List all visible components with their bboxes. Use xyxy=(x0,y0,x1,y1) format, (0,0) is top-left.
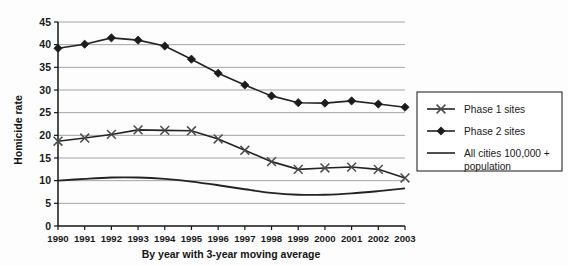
chart-legend: Phase 1 sitesPhase 2 sitesAll cities 100… xyxy=(417,92,562,172)
diamond-marker xyxy=(214,69,222,77)
x-tick-label: 2000 xyxy=(314,233,335,244)
diamond-marker xyxy=(187,55,195,63)
y-tick-label: 5 xyxy=(45,197,51,209)
x-tick-label: 1999 xyxy=(288,233,309,244)
diamond-marker xyxy=(374,100,382,108)
y-tick-label: 20 xyxy=(39,129,51,141)
y-tick-label: 40 xyxy=(39,38,51,50)
y-tick-label: 10 xyxy=(39,174,51,186)
x-tick-label: 2002 xyxy=(368,233,389,244)
diamond-marker xyxy=(401,103,409,111)
data-series xyxy=(54,34,410,195)
diamond-marker xyxy=(348,97,356,105)
cross-marker xyxy=(214,135,223,144)
x-axis-title: By year with 3-year moving average xyxy=(142,248,321,260)
legend-label: Phase 2 sites xyxy=(464,126,525,137)
series-line xyxy=(58,130,405,178)
gridlines xyxy=(58,22,405,203)
x-tick-label: 1996 xyxy=(207,233,228,244)
y-tick-label: 25 xyxy=(39,106,51,118)
legend-label: Phase 1 sites xyxy=(464,104,525,115)
x-tick-label: 2001 xyxy=(341,233,363,244)
y-tick-label: 15 xyxy=(39,152,51,164)
diamond-marker xyxy=(321,99,329,107)
series-line xyxy=(58,38,405,107)
legend-label: All cities 100,000 + xyxy=(464,148,550,159)
x-tick-label: 1998 xyxy=(261,233,283,244)
x-tick-label: 1993 xyxy=(127,233,148,244)
diamond-marker xyxy=(161,42,169,50)
x-tick-label: 1994 xyxy=(154,233,176,244)
chart-canvas: 051015202530354045 199019911992199319941… xyxy=(0,0,568,265)
series-phase-1-sites xyxy=(54,125,410,182)
diamond-marker xyxy=(107,34,115,42)
y-tick-label: 35 xyxy=(39,61,51,73)
y-axis-title: Homicide rate xyxy=(12,95,24,165)
diamond-marker xyxy=(54,44,62,52)
x-tick-label: 1995 xyxy=(181,233,203,244)
cross-marker xyxy=(267,157,276,166)
x-tick-label: 1997 xyxy=(234,233,255,244)
series-phase-2-sites xyxy=(54,34,409,112)
y-tick-label: 45 xyxy=(39,16,51,28)
legend-label-line2: population xyxy=(464,161,511,172)
diamond-marker xyxy=(81,40,89,48)
homicide-rate-line-chart: 051015202530354045 199019911992199319941… xyxy=(0,0,568,265)
y-tick-label: 30 xyxy=(39,84,51,96)
series-line xyxy=(58,177,405,195)
diamond-marker xyxy=(267,92,275,100)
y-tick-label: 0 xyxy=(45,220,51,232)
x-tick-label: 1990 xyxy=(47,233,68,244)
x-axis-tick-labels: 1990199119921993199419951996199719981999… xyxy=(47,226,415,244)
series-all-cities-100-000-population xyxy=(58,177,405,195)
x-tick-label: 1991 xyxy=(74,233,96,244)
diamond-marker xyxy=(241,81,249,89)
cross-marker xyxy=(240,146,249,155)
x-tick-label: 1992 xyxy=(101,233,122,244)
diamond-marker xyxy=(294,99,302,107)
diamond-marker xyxy=(134,36,142,44)
x-tick-label: 2003 xyxy=(394,233,415,244)
